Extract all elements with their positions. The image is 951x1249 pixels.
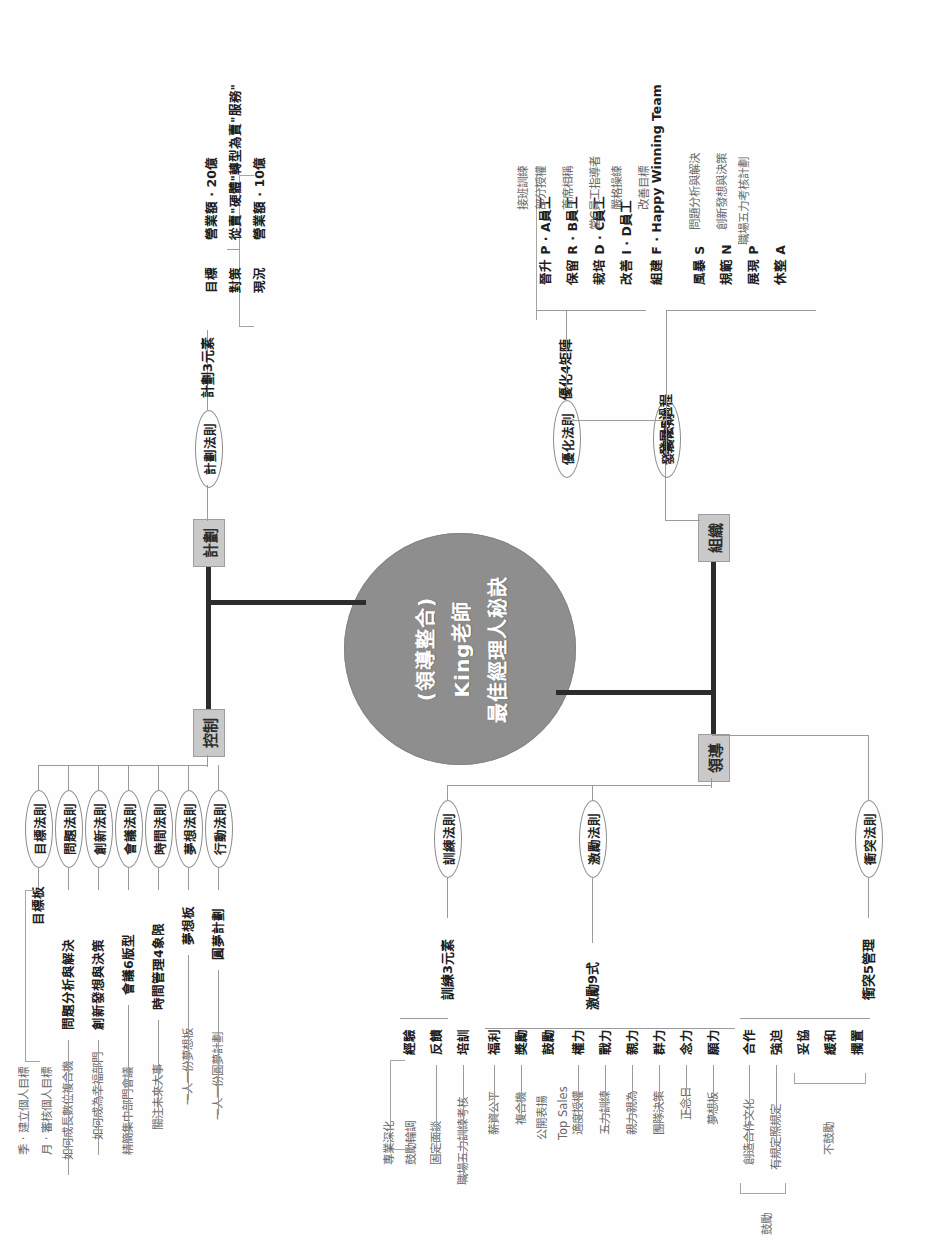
- trunk-org-lead: [556, 690, 716, 695]
- control-item-5-sub-line: [188, 955, 189, 1100]
- organize-group0-stem: [566, 310, 567, 390]
- lead-conflict-discourage-label: 不鼓勵: [824, 1122, 836, 1155]
- lead-conflict-group: 衝突5管理: [862, 939, 875, 1000]
- lead-training-row-0: 經驗: [404, 1029, 417, 1055]
- lead-conflict-law-ellipse[interactable]: 衝突法則: [855, 800, 883, 878]
- control-item-0-bracket: [25, 890, 40, 1062]
- lead-motivation-row-6-line: [659, 1065, 660, 1130]
- lead-training-row-0-sub-0: 專業深化: [384, 1121, 396, 1165]
- center-title-line-3: 最佳經理人秘訣: [482, 576, 511, 723]
- mindmap-canvas: (領導整合) King老師 最佳經理人秘訣 計劃 控制 組織 領導 計劃法則 計…: [0, 0, 951, 1249]
- plan-item-0-label: 現況: [254, 267, 267, 293]
- lead-training-drop: [447, 785, 448, 801]
- lead-motivation-row-4-line: [605, 1065, 606, 1130]
- plan-item-2-detail: 營業額 · 20億: [206, 157, 219, 240]
- lead-motivation-row-3: 權力: [573, 1029, 586, 1055]
- lead-conflict-encourage-brace: [740, 1183, 786, 1194]
- control-law-3-ellipse[interactable]: 會議法則: [115, 790, 143, 868]
- lead-motivation-row-0: 福利: [489, 1029, 502, 1055]
- plan-law-ellipse[interactable]: 計劃法則: [195, 410, 223, 488]
- lead-training-law-ellipse[interactable]: 訓練法則: [434, 800, 462, 878]
- lead-motivation-row-2: 鼓勵: [543, 1029, 556, 1055]
- control-law-5-drop: [188, 765, 189, 791]
- lead-conflict-discouraged-2: 擱置: [852, 1029, 865, 1055]
- control-item-1: 問題分析與解決: [63, 939, 76, 1030]
- lead-motivation-row-4: 戰力: [600, 1029, 613, 1055]
- category-lead[interactable]: 領導: [698, 734, 730, 782]
- organize-law-0-ellipse[interactable]: 優化法則: [553, 400, 581, 478]
- organize-process-row-2-sub-1: 職場五力考核計劃: [739, 157, 751, 245]
- organize-split: [665, 520, 700, 521]
- trunk-plan-control: [206, 600, 366, 605]
- control-item-6: 圓夢計劃: [213, 908, 226, 960]
- lead-motivation-row-5: 親力: [627, 1029, 640, 1055]
- lead-conflict-encouraged-0-line: [749, 1065, 750, 1160]
- plan-item-0-detail: 營業額 · 10億: [254, 157, 267, 240]
- lead-training-row-0-sub-1: 鼓勵輪調: [406, 1121, 418, 1165]
- lead-motivation-row-6: 群力: [654, 1029, 667, 1055]
- control-law-3-drop: [128, 765, 129, 791]
- control-item-0-sub-0: 季 · 建立個人目標: [19, 1067, 31, 1155]
- control-item-3: 會議6版型: [123, 934, 136, 995]
- control-law-6-label: 行動法則: [210, 803, 229, 855]
- category-lead-label: 領導: [704, 743, 725, 773]
- plan-item-2-label: 目標: [206, 267, 219, 293]
- organize-matrix-row-0-sub-0: 接班訓練: [518, 166, 530, 210]
- plan-group-label: 計劃3元素: [201, 337, 214, 398]
- control-law-5-label: 夢想法則: [180, 803, 199, 855]
- control-law-4-label: 時間法則: [150, 803, 169, 855]
- organize-process-row-2-sub-0: 創新發想與決策: [717, 153, 729, 230]
- control-law-1-drop: [68, 765, 69, 791]
- control-item-2-sub-line: [98, 1040, 99, 1155]
- center-node: (領導整合) King老師 最佳經理人秘訣: [344, 533, 576, 765]
- control-law-0-drop: [38, 765, 39, 791]
- lead-training-law-label: 訓練法則: [439, 813, 458, 865]
- control-law-4-ellipse[interactable]: 時間法則: [145, 790, 173, 868]
- control-law-1-label: 問題法則: [60, 803, 79, 855]
- lead-spine: [447, 785, 712, 786]
- control-item-0-sub-1: 月 · 審核個人目標: [42, 1067, 54, 1155]
- lead-motivation-row-2-sub-1: Top Sales: [558, 1086, 570, 1140]
- center-title-line-1: (領導整合): [410, 597, 439, 701]
- lead-conflict-discouraged-1: 緩和: [825, 1029, 838, 1055]
- lead-motivation-drop: [592, 785, 593, 801]
- control-law-2-drop: [98, 765, 99, 791]
- category-organize[interactable]: 組織: [698, 514, 730, 562]
- control-item-2: 創新發想與決策: [93, 939, 106, 1030]
- control-item-3-stem: [128, 868, 129, 890]
- lead-conflict-spine: [740, 1018, 870, 1019]
- lead-motivation-law-ellipse[interactable]: 激勵法則: [579, 800, 607, 878]
- organize-matrix-row-1-sub-0: 首席相稱: [563, 166, 575, 210]
- control-item-5: 夢想板: [183, 906, 196, 945]
- control-law-6-ellipse[interactable]: 行動法則: [205, 790, 233, 868]
- lead-motivation-group: 激勵9式: [586, 962, 599, 1010]
- control-law-2-ellipse[interactable]: 創新法則: [85, 790, 113, 868]
- control-item-1-stem: [68, 868, 69, 890]
- lead-conflict-law-label: 衝突法則: [860, 813, 879, 865]
- plan-bracket-stem: [227, 249, 240, 250]
- control-law-5-ellipse[interactable]: 夢想法則: [175, 790, 203, 868]
- lead-conflict-top: [712, 735, 869, 736]
- organize-process-spine: [666, 310, 816, 311]
- category-control[interactable]: 控制: [193, 709, 225, 757]
- organize-process-row-0: 組建 F · Happy Winning Team: [651, 84, 664, 285]
- trunk-control-stem: [206, 600, 211, 710]
- plan-law-label: 計劃法則: [200, 423, 219, 475]
- lead-motivation-law-label: 激勵法則: [584, 813, 603, 865]
- control-item-3-sub-line: [128, 1005, 129, 1155]
- control-law-1-ellipse[interactable]: 問題法則: [55, 790, 83, 868]
- control-law-0-label: 目標法則: [30, 803, 49, 855]
- lead-conflict-encouraged-1: 強迫: [771, 1029, 784, 1055]
- category-control-label: 控制: [199, 718, 220, 748]
- lead-spine-drop: [711, 778, 712, 788]
- lead-training-spine: [400, 1018, 448, 1019]
- lead-motivation-row-5-line: [632, 1065, 633, 1130]
- lead-motivation-stem: [592, 878, 593, 943]
- plan-connector-1: [207, 485, 208, 521]
- lead-conflict-encouraged-1-line: [776, 1065, 777, 1165]
- control-law-0-ellipse[interactable]: 目標法則: [25, 790, 53, 868]
- lead-training-row-2: 培訓: [458, 1029, 471, 1055]
- lead-conflict-discouraged-0: 妥協: [798, 1029, 811, 1055]
- category-plan[interactable]: 計劃: [193, 519, 225, 567]
- control-law-3-label: 會議法則: [120, 803, 139, 855]
